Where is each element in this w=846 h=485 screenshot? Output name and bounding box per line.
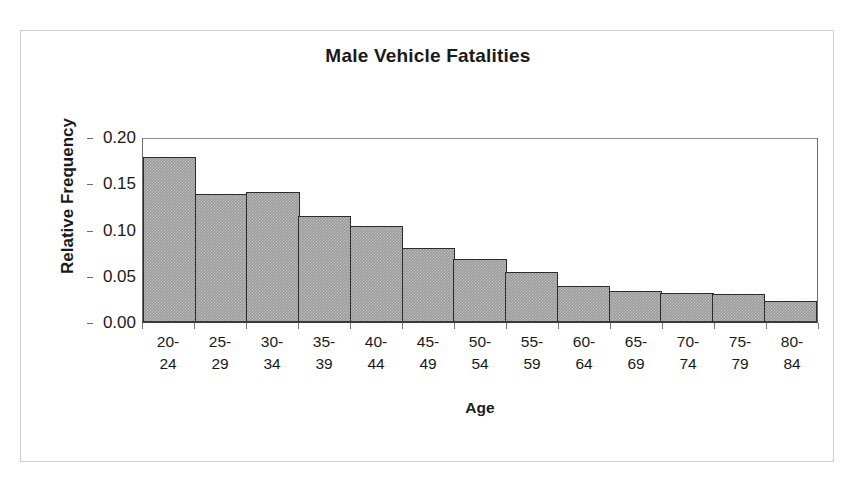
x-axis-tick-label: 75-79	[714, 331, 766, 375]
x-axis-tick-label-line: 30-	[246, 331, 298, 353]
x-axis-tick-label-line: 29	[194, 353, 246, 375]
x-axis-tick-mark	[610, 323, 611, 329]
x-axis-tick-label-line: 70-	[662, 331, 714, 353]
x-axis-tick-label: 50-54	[454, 331, 506, 375]
x-axis-tick-label: 35-39	[298, 331, 350, 375]
bar	[660, 293, 713, 321]
x-axis-tick-label: 45-49	[402, 331, 454, 375]
x-axis-tick-label-line: 79	[714, 353, 766, 375]
x-axis-tick-mark	[298, 323, 299, 329]
bar	[402, 248, 455, 321]
x-axis-tick-label-line: 65-	[610, 331, 662, 353]
y-axis-tick-mark	[87, 231, 93, 232]
figure-frame: Male Vehicle Fatalities Relative Frequen…	[20, 30, 834, 462]
x-axis-tick-label-line: 60-	[558, 331, 610, 353]
plot-area	[142, 138, 818, 323]
bar	[712, 294, 765, 321]
x-axis-tick-label-line: 39	[298, 353, 350, 375]
x-axis-tick-mark	[506, 323, 507, 329]
bar	[453, 259, 506, 321]
x-axis-tick-mark	[766, 323, 767, 329]
x-axis-tick-label-line: 80-	[766, 331, 818, 353]
y-axis-tick-mark	[87, 323, 93, 324]
y-axis-tick-mark	[87, 277, 93, 278]
x-axis-tick-label-line: 69	[610, 353, 662, 375]
x-axis-tick-label: 20-24	[142, 331, 194, 375]
x-axis-tick-mark	[454, 323, 455, 329]
x-axis-tick-label: 60-64	[558, 331, 610, 375]
x-axis-tick-label-line: 49	[402, 353, 454, 375]
x-axis-tick-label-line: 64	[558, 353, 610, 375]
x-axis-tick-mark	[246, 323, 247, 329]
x-axis-tick-mark	[714, 323, 715, 329]
chart-screenshot: Male Vehicle Fatalities Relative Frequen…	[0, 0, 846, 485]
chart-title: Male Vehicle Fatalities	[21, 45, 835, 67]
x-axis-tick-label-line: 34	[246, 353, 298, 375]
bar	[350, 226, 403, 321]
x-axis-tick-mark	[350, 323, 351, 329]
x-axis-tick-label-line: 55-	[506, 331, 558, 353]
x-axis-tick-mark	[194, 323, 195, 329]
x-axis-tick-label-line: 54	[454, 353, 506, 375]
x-axis-tick-label: 25-29	[194, 331, 246, 375]
x-axis-tick-labels: 20-2425-2930-3435-3940-4445-4950-5455-59…	[142, 331, 818, 375]
x-axis-tick-mark	[662, 323, 663, 329]
x-axis-tick-label-line: 35-	[298, 331, 350, 353]
x-axis-tick-label: 55-59	[506, 331, 558, 375]
x-axis-tick-label-line: 84	[766, 353, 818, 375]
bar	[195, 194, 248, 321]
x-axis-tick-label-line: 25-	[194, 331, 246, 353]
x-axis-tick-label: 65-69	[610, 331, 662, 375]
x-axis-tick-label: 40-44	[350, 331, 402, 375]
bar	[609, 291, 662, 321]
x-axis-tick-mark	[558, 323, 559, 329]
x-axis-tick-mark	[402, 323, 403, 329]
y-axis-title: Relative Frequency	[58, 86, 78, 306]
x-axis-tick-label-line: 20-	[142, 331, 194, 353]
x-axis-tick-label-line: 45-	[402, 331, 454, 353]
bar-series	[143, 139, 817, 321]
x-axis-title: Age	[142, 399, 818, 417]
x-axis-tick-label: 80-84	[766, 331, 818, 375]
y-axis-tick-mark	[87, 138, 93, 139]
x-axis-tick-label-line: 24	[142, 353, 194, 375]
bar	[557, 286, 610, 321]
x-axis-tick-label-line: 44	[350, 353, 402, 375]
x-axis-tick-label-line: 74	[662, 353, 714, 375]
x-axis-tick-label: 30-34	[246, 331, 298, 375]
x-axis-tick-label-line: 50-	[454, 331, 506, 353]
bar	[505, 272, 558, 321]
y-axis-tick-labels: 0.200.150.100.050.00	[76, 138, 136, 323]
x-axis-tick-mark	[142, 323, 143, 329]
y-axis-tick-mark	[87, 184, 93, 185]
bar	[764, 301, 817, 321]
bar	[298, 216, 351, 321]
x-axis-tick-label-line: 75-	[714, 331, 766, 353]
x-axis-tick-label-line: 40-	[350, 331, 402, 353]
x-axis-tick-label-line: 59	[506, 353, 558, 375]
x-axis-tick-label: 70-74	[662, 331, 714, 375]
x-axis-tick-mark	[818, 323, 819, 329]
bar	[246, 192, 299, 322]
bar	[143, 157, 196, 321]
